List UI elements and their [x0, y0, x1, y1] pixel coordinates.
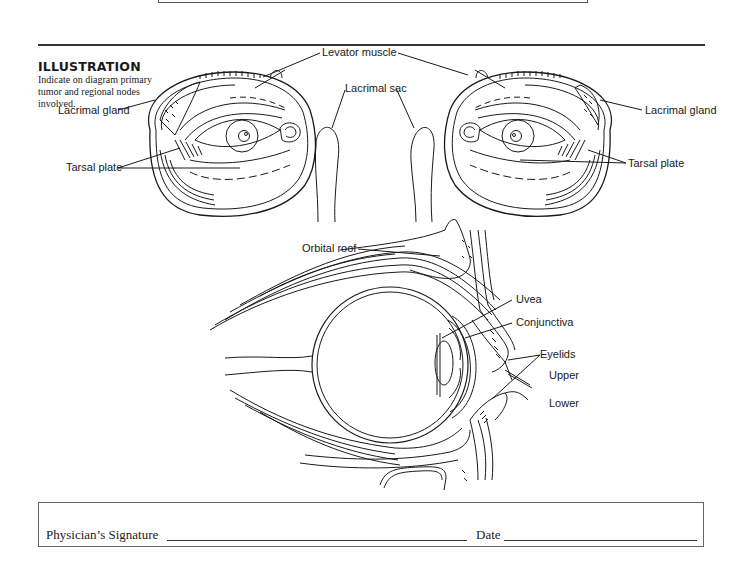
label-upper: Upper: [549, 369, 579, 381]
label-conjunctiva: Conjunctiva: [516, 316, 573, 328]
label-lacrimal-sac: Lacrimal sac: [345, 82, 407, 94]
label-lacrimal-gland-right: Lacrimal gland: [645, 104, 717, 116]
side-view-eye-drawing: [210, 219, 532, 490]
label-uvea: Uvea: [516, 293, 542, 305]
date-label: Date: [476, 527, 501, 543]
label-tarsal-plate-right: Tarsal plate: [628, 157, 684, 169]
lacrimal-sacs-drawing: [315, 127, 434, 222]
left-eye-drawing: [149, 70, 316, 216]
date-field[interactable]: [504, 540, 697, 541]
label-lower: Lower: [549, 397, 579, 409]
label-lacrimal-gland-left: Lacrimal gland: [58, 104, 130, 116]
label-levator-muscle: Levator muscle: [322, 46, 397, 58]
right-eye-drawing: [445, 70, 612, 216]
label-tarsal-plate-left: Tarsal plate: [66, 161, 122, 173]
front-view-leader-lines: [118, 53, 642, 168]
label-eyelids: Eyelids: [540, 348, 575, 360]
label-orbital-roof: Orbital roof: [302, 242, 356, 254]
physician-signature-field[interactable]: [167, 540, 467, 541]
physician-signature-label: Physician’s Signature: [46, 527, 158, 543]
